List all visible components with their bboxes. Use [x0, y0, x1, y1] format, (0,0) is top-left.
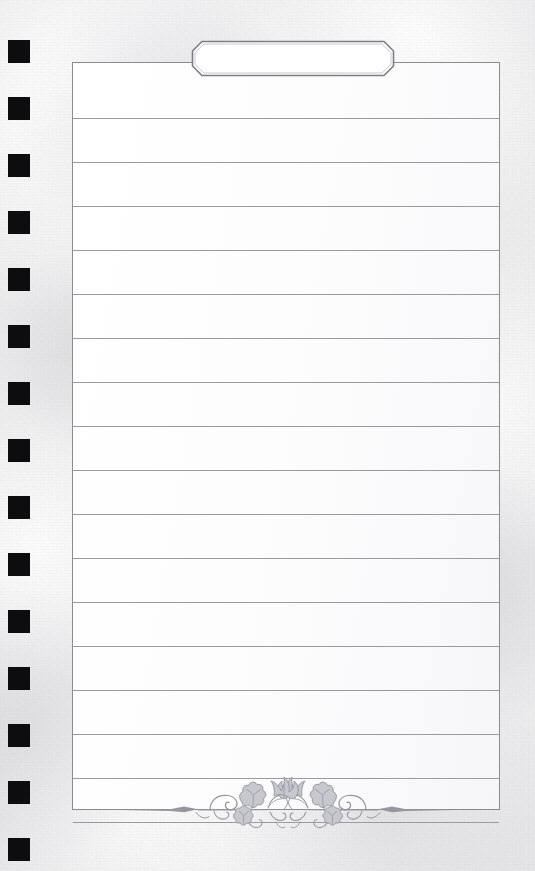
- rule-line: [73, 426, 499, 427]
- rule-line: [73, 778, 499, 779]
- note-sheet[interactable]: [72, 62, 500, 810]
- title-tab[interactable]: [191, 40, 395, 77]
- note-line[interactable]: [83, 360, 489, 381]
- note-line[interactable]: [83, 96, 489, 117]
- rule-line: [73, 514, 499, 515]
- note-line[interactable]: [83, 492, 489, 513]
- punch-square: [8, 211, 30, 234]
- note-line[interactable]: [83, 448, 489, 469]
- note-line[interactable]: [83, 272, 489, 293]
- rule-line: [73, 294, 499, 295]
- punch-square: [8, 439, 30, 462]
- note-line[interactable]: [83, 756, 489, 777]
- punch-square: [8, 838, 30, 861]
- punch-square: [8, 325, 30, 348]
- note-line[interactable]: [83, 228, 489, 249]
- note-line[interactable]: [83, 712, 489, 733]
- note-line[interactable]: [83, 624, 489, 645]
- note-line[interactable]: [83, 184, 489, 205]
- note-line[interactable]: [83, 316, 489, 337]
- rule-line: [73, 382, 499, 383]
- page-canvas: [0, 0, 535, 871]
- punch-square: [8, 97, 30, 120]
- rule-line: [73, 646, 499, 647]
- title-tab-label: [191, 40, 395, 77]
- note-line[interactable]: [83, 800, 489, 821]
- rule-line: [73, 338, 499, 339]
- punch-square: [8, 553, 30, 576]
- punch-square: [8, 496, 30, 519]
- rule-line: [73, 206, 499, 207]
- punch-square: [8, 154, 30, 177]
- rule-line: [73, 118, 499, 119]
- rule-line: [73, 602, 499, 603]
- margin-punch-strip: [0, 0, 60, 871]
- sheet-sheen: [73, 63, 499, 809]
- punch-square: [8, 667, 30, 690]
- note-line[interactable]: [83, 536, 489, 557]
- note-line[interactable]: [83, 140, 489, 161]
- note-line[interactable]: [83, 404, 489, 425]
- note-line[interactable]: [83, 580, 489, 601]
- rule-line: [73, 822, 499, 823]
- punch-square: [8, 268, 30, 291]
- rule-line: [73, 690, 499, 691]
- punch-square: [8, 40, 30, 63]
- punch-square: [8, 610, 30, 633]
- punch-square: [8, 382, 30, 405]
- note-line[interactable]: [83, 668, 489, 689]
- punch-square: [8, 724, 30, 747]
- rule-line: [73, 734, 499, 735]
- rule-line: [73, 162, 499, 163]
- rule-line: [73, 558, 499, 559]
- rule-line: [73, 250, 499, 251]
- rule-line: [73, 470, 499, 471]
- punch-square: [8, 781, 30, 804]
